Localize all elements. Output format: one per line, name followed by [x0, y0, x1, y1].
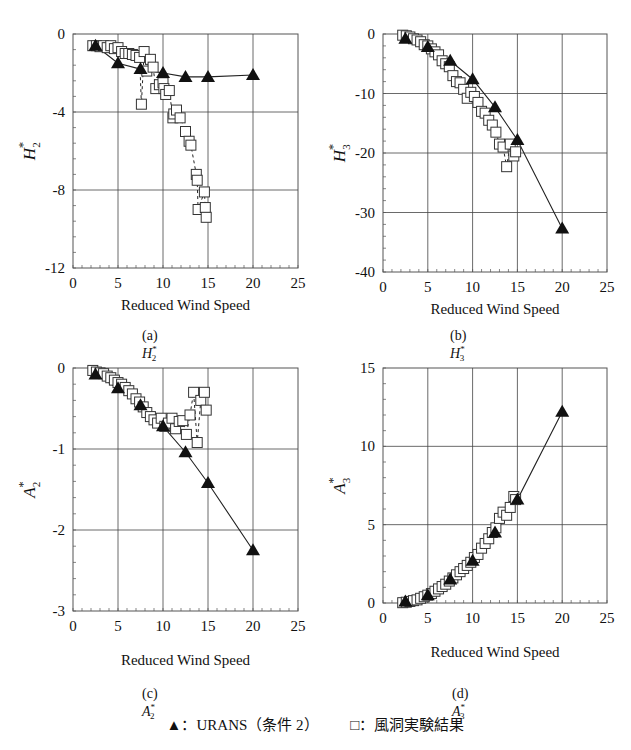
y-tick-label: -1 — [53, 441, 66, 457]
urans-point — [201, 476, 215, 488]
y-tick-label: 10 — [360, 438, 375, 454]
y-tick-label: 0 — [368, 595, 376, 611]
x-axis-label: Reduced Wind Speed — [430, 644, 560, 660]
plot-frame — [383, 368, 607, 603]
legend-urans-label: ：URANS（条件 2） — [181, 717, 318, 733]
x-tick-label: 15 — [510, 610, 525, 626]
y-tick-label: -40 — [355, 264, 375, 280]
experiment-point — [181, 429, 191, 439]
x-tick-label: 20 — [246, 275, 261, 291]
x-tick-label: 5 — [424, 279, 432, 295]
filled-triangle-icon: ▲ — [167, 717, 182, 733]
caption-a: (a) H*2 — [142, 328, 175, 363]
chart-a: 05101520250-4-8-12Reduced Wind SpeedH2* — [0, 0, 315, 320]
caption-c-prefix: (c) — [142, 686, 158, 701]
x-tick-label: 5 — [114, 275, 122, 291]
experiment-point — [175, 113, 185, 123]
experiment-point — [200, 203, 210, 213]
x-tick-label: 5 — [424, 610, 432, 626]
x-tick-label: 0 — [379, 610, 387, 626]
x-tick-label: 0 — [69, 275, 77, 291]
y-axis-label: A3* — [325, 477, 352, 494]
chart-panel-a: 05101520250-4-8-12Reduced Wind SpeedH2* — [0, 0, 315, 320]
urans-point — [246, 543, 260, 555]
experiment-point — [192, 175, 202, 185]
y-tick-label: -12 — [45, 260, 65, 276]
legend: ▲：URANS（条件 2） □：風洞実験結果 — [0, 713, 631, 734]
caption-a-prefix: (a) — [142, 328, 158, 343]
x-tick-label: 10 — [465, 279, 480, 295]
y-tick-label: -10 — [355, 86, 375, 102]
x-axis-label: Reduced Wind Speed — [430, 301, 560, 317]
experiment-point — [181, 127, 191, 137]
experiment-point — [199, 187, 209, 197]
x-tick-label: 15 — [201, 275, 216, 291]
experiment-point — [201, 212, 211, 222]
y-tick-label: -4 — [53, 104, 66, 120]
y-tick-label: 0 — [58, 360, 66, 376]
urans-line — [96, 374, 254, 550]
chart-panel-d: 0510152025051015Reduced Wind SpeedA3* — [310, 340, 631, 680]
x-tick-label: 20 — [555, 610, 570, 626]
y-axis-label: H2* — [15, 142, 42, 161]
x-tick-label: 20 — [555, 279, 570, 295]
y-tick-label: 5 — [368, 517, 376, 533]
y-tick-label: -30 — [355, 205, 375, 221]
y-tick-label: -8 — [53, 182, 66, 198]
urans-point — [555, 405, 569, 417]
caption-a-symbol: H — [142, 346, 152, 361]
x-tick-label: 10 — [156, 275, 171, 291]
urans-point — [246, 68, 260, 80]
plot-frame — [73, 368, 298, 611]
chart-panel-c: 05101520250-1-2-3Reduced Wind SpeedA2* — [0, 340, 315, 680]
experiment-point — [192, 438, 202, 448]
experiment-point — [201, 405, 211, 415]
x-tick-label: 25 — [291, 618, 306, 634]
x-tick-label: 20 — [246, 618, 261, 634]
x-tick-label: 15 — [201, 618, 216, 634]
urans-point — [555, 222, 569, 234]
y-tick-label: 15 — [360, 360, 375, 376]
urans-point — [488, 100, 502, 112]
experiment-point — [491, 127, 501, 137]
y-axis-label: A2* — [15, 481, 42, 498]
x-axis-label: Reduced Wind Speed — [121, 652, 251, 668]
experiment-point — [148, 62, 158, 72]
y-tick-label: 0 — [58, 26, 66, 42]
plot-frame — [73, 34, 298, 268]
x-axis-label: Reduced Wind Speed — [121, 297, 251, 313]
chart-b: 05101520250-10-20-30-40Reduced Wind Spee… — [310, 0, 631, 320]
x-tick-label: 25 — [291, 275, 306, 291]
urans-point — [466, 72, 480, 84]
caption-a-sub: 2 — [152, 353, 157, 363]
legend-urans: ▲：URANS（条件 2） — [167, 717, 323, 733]
experiment-point — [502, 162, 512, 172]
y-axis-label: H3* — [325, 144, 352, 163]
urans-line — [405, 39, 562, 229]
caption-d-prefix: (d) — [452, 686, 468, 701]
x-tick-label: 25 — [600, 610, 615, 626]
chart-d: 0510152025051015Reduced Wind SpeedA3* — [310, 340, 631, 680]
x-tick-label: 15 — [510, 279, 525, 295]
y-tick-label: -3 — [53, 603, 66, 619]
x-tick-label: 0 — [69, 618, 77, 634]
x-tick-label: 5 — [114, 618, 122, 634]
y-tick-label: -2 — [53, 522, 66, 538]
legend-experiment: □：風洞実験結果 — [350, 717, 464, 733]
caption-b-symbol: H — [450, 346, 460, 361]
chart-c: 05101520250-1-2-3Reduced Wind SpeedA2* — [0, 340, 315, 680]
y-tick-label: -20 — [355, 145, 375, 161]
urans-point — [201, 70, 215, 82]
caption-b: (b) H*3 — [450, 328, 484, 363]
y-tick-label: 0 — [368, 26, 376, 42]
experiment-point — [136, 99, 146, 109]
x-tick-label: 25 — [600, 279, 615, 295]
urans-line — [405, 412, 562, 602]
legend-experiment-label: ：風洞実験結果 — [359, 717, 464, 733]
experiment-point — [185, 410, 195, 420]
experiment-point — [164, 86, 174, 96]
caption-b-sub: 3 — [460, 353, 465, 363]
x-tick-label: 0 — [379, 279, 387, 295]
x-tick-label: 10 — [156, 618, 171, 634]
experiment-point — [511, 147, 521, 157]
